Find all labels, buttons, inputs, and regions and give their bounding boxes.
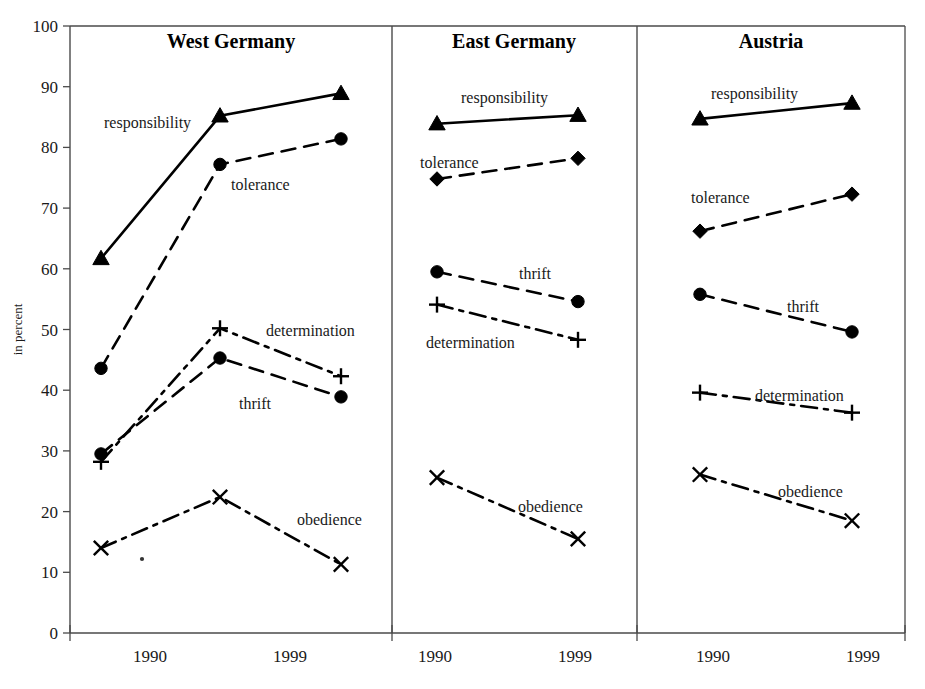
- series-line-responsibility: [700, 103, 852, 119]
- series-label-thrift: thrift: [519, 265, 552, 282]
- x-tick-label: 1990: [418, 647, 452, 666]
- series-label-obedience: obedience: [518, 498, 583, 515]
- x-tick-label: 1990: [696, 647, 730, 666]
- series-label-tolerance: tolerance: [420, 154, 479, 171]
- series-determination: [93, 320, 349, 470]
- panel-titles: West GermanyEast GermanyAustria: [167, 30, 803, 53]
- chart-canvas: 0102030405060708090100199019991990199919…: [0, 0, 925, 689]
- series-thrift: [431, 266, 584, 308]
- marker-circle: [214, 352, 226, 364]
- y-tick-label: 30: [41, 442, 58, 461]
- series-annotations: responsibilitytolerancedeterminationthri…: [104, 85, 844, 528]
- y-tick-label: 90: [41, 78, 58, 97]
- marker-diamond: [693, 224, 707, 238]
- x-tick-label: 1990: [133, 647, 167, 666]
- marker-triangle: [844, 95, 860, 109]
- panel-title-2: Austria: [739, 30, 803, 52]
- marker-circle: [335, 391, 347, 403]
- series-responsibility: [429, 107, 586, 130]
- marker-circle: [214, 158, 226, 170]
- y-tick-label: 20: [41, 503, 58, 522]
- series-thrift: [95, 352, 347, 460]
- y-tick-label: 60: [41, 260, 58, 279]
- marker-diamond: [571, 151, 585, 165]
- y-tick-label: 40: [41, 381, 58, 400]
- scan-artifacts: [140, 557, 144, 561]
- marker-circle: [846, 326, 858, 338]
- panel-1-series: [429, 107, 586, 546]
- x-tick-label: 1999: [558, 647, 592, 666]
- marker-circle: [694, 288, 706, 300]
- series-line-determination: [101, 328, 341, 462]
- series-label-thrift: thrift: [787, 298, 820, 315]
- x-tick-label: 1999: [273, 647, 307, 666]
- series-label-tolerance: tolerance: [231, 176, 290, 193]
- y-tick-label: 100: [33, 17, 59, 36]
- series-line-thrift: [101, 358, 341, 454]
- y-tick-label: 80: [41, 138, 58, 157]
- series-line-obedience: [101, 497, 341, 564]
- y-tick-label: 50: [41, 321, 58, 340]
- chart-figure: 0102030405060708090100199019991990199919…: [0, 0, 925, 689]
- series-line-thrift: [700, 294, 852, 332]
- series-label-responsibility: responsibility: [711, 85, 798, 103]
- series-label-responsibility: responsibility: [461, 89, 548, 107]
- series-obedience: [94, 490, 348, 572]
- x-tick-label: 1999: [846, 647, 880, 666]
- series-label-thrift: thrift: [239, 395, 272, 412]
- marker-circle: [335, 133, 347, 145]
- marker-diamond: [430, 172, 444, 186]
- marker-circle: [95, 448, 107, 460]
- series-label-determination: determination: [266, 322, 355, 339]
- series-label-determination: determination: [755, 387, 844, 404]
- series-thrift: [694, 288, 858, 338]
- series-responsibility: [93, 85, 349, 264]
- marker-circle: [572, 295, 584, 307]
- series-label-obedience: obedience: [297, 511, 362, 528]
- series-label-responsibility: responsibility: [104, 114, 191, 132]
- panel-title-0: West Germany: [167, 30, 295, 53]
- marker-diamond: [845, 187, 859, 201]
- series-label-tolerance: tolerance: [691, 189, 750, 206]
- marker-triangle: [570, 107, 586, 121]
- series-line-thrift: [437, 272, 578, 302]
- series-line-responsibility: [437, 115, 578, 124]
- panel-title-1: East Germany: [452, 30, 576, 53]
- marker-triangle: [333, 85, 349, 99]
- series-label-obedience: obedience: [778, 483, 843, 500]
- artifact-dot: [140, 557, 144, 561]
- y-tick-label: 10: [41, 563, 58, 582]
- series-label-determination: determination: [426, 334, 515, 351]
- y-tick-label: 0: [50, 624, 59, 643]
- marker-circle: [95, 362, 107, 374]
- marker-circle: [431, 266, 443, 278]
- y-axis-title: in percent: [10, 303, 25, 355]
- panel-2-series: [692, 95, 860, 528]
- y-tick-label: 70: [41, 199, 58, 218]
